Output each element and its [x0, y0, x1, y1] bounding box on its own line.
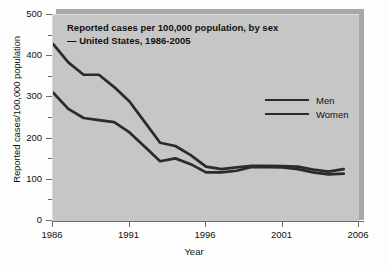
legend-label-women: Women [316, 109, 349, 120]
y-tick-200 [46, 138, 52, 139]
chart-figure: Reported cases/100,000 population Report… [0, 0, 388, 266]
x-tick-label-1986: 1986 [29, 229, 75, 240]
y-tick-minor-450 [48, 35, 52, 36]
x-tick-label-1991: 1991 [106, 229, 152, 240]
x-axis-line [52, 221, 364, 222]
x-tick-2001 [282, 221, 283, 227]
y-tick-label-100: 100 [8, 173, 42, 184]
y-tick-500 [46, 14, 52, 15]
y-tick-label-300: 300 [8, 90, 42, 101]
x-tick-label-2006: 2006 [335, 229, 381, 240]
plot-area: Reported cases per 100,000 population, b… [52, 9, 364, 220]
x-tick-1986 [52, 221, 53, 227]
y-tick-label-400: 400 [8, 49, 42, 60]
y-tick-minor-250 [48, 117, 52, 118]
legend-item-men: Men [265, 93, 349, 107]
legend-swatch-men [265, 99, 309, 101]
legend-label-men: Men [316, 95, 334, 106]
x-tick-label-1996: 1996 [182, 229, 228, 240]
y-tick-300 [46, 96, 52, 97]
legend-swatch-women [265, 113, 309, 115]
x-tick-1991 [129, 221, 130, 227]
y-tick-minor-150 [48, 158, 52, 159]
y-tick-label-0: 0 [8, 214, 42, 225]
y-tick-minor-350 [48, 76, 52, 77]
y-tick-100 [46, 179, 52, 180]
legend-item-women: Women [265, 107, 349, 121]
x-axis-title: Year [0, 246, 388, 257]
y-tick-label-500: 500 [8, 8, 42, 19]
chart-title: Reported cases per 100,000 population, b… [67, 22, 278, 47]
x-tick-2006 [358, 221, 359, 227]
y-tick-label-200: 200 [8, 132, 42, 143]
chart-legend: Men Women [265, 93, 349, 121]
plot-background: Reported cases per 100,000 population, b… [52, 14, 359, 221]
y-tick-minor-50 [48, 199, 52, 200]
x-tick-1996 [205, 221, 206, 227]
x-tick-label-2001: 2001 [259, 229, 305, 240]
y-tick-400 [46, 55, 52, 56]
